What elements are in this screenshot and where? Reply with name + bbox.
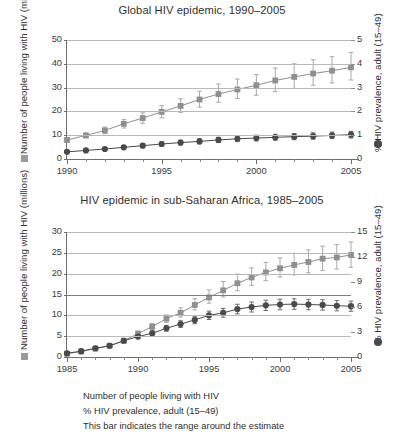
x-tick-mark bbox=[67, 357, 68, 362]
error-bar bbox=[65, 353, 70, 354]
data-point-circle bbox=[196, 138, 202, 144]
x-axis-line bbox=[67, 159, 359, 160]
x-tick-label: 1990 bbox=[57, 166, 78, 176]
data-point-circle bbox=[249, 304, 255, 310]
error-bar bbox=[330, 57, 335, 83]
error-bar bbox=[164, 325, 169, 331]
error-bar bbox=[197, 139, 202, 144]
data-point-square bbox=[178, 103, 184, 109]
y-tick-label-left: 25 bbox=[52, 248, 62, 257]
x-tick-label: 1985 bbox=[57, 364, 78, 374]
data-point-square bbox=[272, 78, 278, 84]
y-tick-label-left: 15 bbox=[52, 290, 62, 299]
x-tick-label: 2000 bbox=[270, 364, 291, 374]
data-point-square bbox=[310, 71, 316, 77]
error-bar bbox=[278, 299, 283, 310]
y-tick-mark-right bbox=[351, 257, 355, 258]
x-tick-mark bbox=[105, 159, 106, 162]
error-bar bbox=[216, 137, 221, 142]
x-tick-mark bbox=[223, 357, 224, 360]
y-axis-title-right-global: % HIV prevalence, adult (15–49) bbox=[372, 48, 384, 152]
error-bar bbox=[65, 353, 70, 354]
y-tick-label-right: 2 bbox=[357, 106, 362, 115]
error-bar bbox=[140, 113, 145, 123]
x-tick-mark bbox=[195, 357, 196, 360]
y-tick-mark-left bbox=[64, 232, 68, 233]
y-tick-mark-left bbox=[64, 64, 68, 65]
data-point-square bbox=[197, 97, 203, 103]
data-point-square bbox=[140, 115, 146, 121]
figure-root: Global HIV epidemic, 1990–2005 Number of… bbox=[0, 0, 404, 439]
x-tick-mark bbox=[124, 357, 125, 360]
error-bar bbox=[122, 339, 127, 342]
data-point-circle bbox=[163, 325, 169, 331]
x-tick-label: 1995 bbox=[151, 166, 172, 176]
x-tick-label: 2005 bbox=[341, 364, 362, 374]
error-bar bbox=[235, 304, 240, 314]
data-point-circle bbox=[64, 350, 70, 356]
x-tick-mark bbox=[308, 357, 309, 360]
x-tick-mark bbox=[294, 357, 295, 360]
data-point-square bbox=[348, 64, 354, 70]
chart-ssa-hiv: HIV epidemic in sub-Saharan Africa, 1985… bbox=[0, 190, 404, 385]
y-tick-mark-right bbox=[351, 111, 355, 112]
data-point-square bbox=[329, 68, 335, 74]
error-bar bbox=[292, 64, 297, 89]
legend-line-number-of-people: Number of people living with HIV bbox=[83, 388, 284, 403]
error-bar bbox=[235, 274, 240, 291]
x-tick-mark bbox=[95, 357, 96, 360]
data-point-circle bbox=[83, 147, 89, 153]
x-tick-mark bbox=[266, 357, 267, 360]
y-tick-label-right: 6 bbox=[357, 302, 362, 311]
error-bar bbox=[335, 245, 340, 270]
data-point-circle bbox=[263, 302, 269, 308]
error-bar bbox=[292, 253, 297, 275]
x-tick-mark bbox=[275, 159, 276, 162]
x-tick-mark bbox=[252, 357, 253, 360]
y-tick-label-left: 20 bbox=[52, 269, 62, 278]
x-tick-mark bbox=[200, 159, 201, 162]
x-tick-mark bbox=[237, 357, 238, 360]
y-tick-label-right: 5 bbox=[357, 35, 362, 44]
gridline bbox=[67, 111, 351, 112]
x-tick-mark bbox=[294, 159, 295, 162]
error-bar bbox=[235, 79, 240, 99]
x-tick-mark bbox=[337, 357, 338, 360]
data-point-circle bbox=[334, 303, 340, 309]
data-point-square bbox=[121, 338, 127, 344]
gridline bbox=[67, 88, 351, 89]
error-bar bbox=[306, 299, 311, 310]
gridline bbox=[67, 253, 351, 254]
data-point-square bbox=[164, 316, 170, 322]
y-tick-label-right: 3 bbox=[357, 83, 362, 92]
error-bar bbox=[93, 347, 98, 349]
x-tick-label: 2005 bbox=[341, 166, 362, 176]
x-tick-mark bbox=[351, 357, 352, 362]
square-marker-legend-icon-global bbox=[21, 155, 28, 162]
plot-area-ssa: 0510152025300369121519851990199520002005 bbox=[66, 232, 351, 357]
x-tick-mark bbox=[218, 159, 219, 162]
figure-legend: Number of people living with HIV % HIV p… bbox=[83, 388, 284, 434]
x-tick-mark bbox=[138, 357, 139, 362]
error-bar bbox=[107, 345, 112, 348]
data-point-square bbox=[121, 121, 127, 127]
data-point-square bbox=[291, 74, 297, 80]
data-point-circle bbox=[64, 149, 70, 155]
data-point-square bbox=[64, 137, 70, 143]
data-point-circle bbox=[291, 301, 297, 307]
error-bar bbox=[249, 302, 254, 312]
error-bar bbox=[103, 148, 108, 151]
data-point-circle bbox=[107, 343, 113, 349]
data-point-square bbox=[64, 351, 70, 357]
error-bar bbox=[235, 136, 240, 142]
y-tick-mark-right bbox=[351, 332, 355, 333]
chart-global-hiv: Global HIV epidemic, 1990–2005 Number of… bbox=[0, 0, 404, 190]
data-point-square bbox=[220, 287, 226, 293]
y-tick-mark-left bbox=[64, 315, 68, 316]
x-tick-mark bbox=[86, 159, 87, 162]
data-point-circle bbox=[305, 301, 311, 307]
data-point-circle bbox=[121, 144, 127, 150]
x-tick-mark bbox=[81, 357, 82, 360]
error-bar bbox=[254, 75, 259, 96]
y-tick-mark-right bbox=[351, 135, 355, 136]
